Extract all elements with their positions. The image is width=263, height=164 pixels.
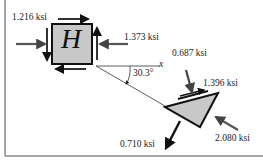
x-axis-label: x [159,58,163,69]
stress-label-1216: 1.216 ksi [12,12,47,22]
normal-arrow-0710 [166,121,180,148]
rotated-axis-line [96,66,165,106]
normal-arrow-0687 [186,70,192,92]
normal-arrow-2080 [216,117,238,130]
stress-label-0710: 0.710 ksi [120,139,155,149]
stress-label-0687: 0.687 ksi [172,48,207,58]
angle-label: 30.3° [133,68,153,78]
stress-label-1396: 1.396 ksi [203,78,238,88]
stress-label-1373: 1.373 ksi [124,32,159,42]
rotated-element-triangle [165,93,218,127]
stress-label-2080: 2.080 ksi [215,133,250,143]
angle-arc [126,66,130,84]
element-label: H [61,23,81,55]
stress-element-diagram: H 1.216 ksi 1.373 ksi x 30.3° 0.687 ksi … [0,0,263,164]
